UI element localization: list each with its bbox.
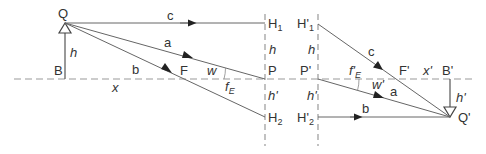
label-w: w xyxy=(207,63,218,78)
label-f-prime-e: f'E xyxy=(349,63,362,80)
label-ray-b: b xyxy=(132,62,139,77)
label-p-prime: P' xyxy=(300,63,311,78)
label-ray-a: a xyxy=(164,35,172,50)
label-h-image-plane: h xyxy=(308,42,315,57)
label-q: Q xyxy=(58,6,68,21)
label-h2: H2 xyxy=(268,110,282,127)
label-w-prime: w' xyxy=(372,77,384,92)
label-ray-a-image: a xyxy=(390,84,398,99)
label-f: F xyxy=(180,63,188,78)
label-h-prime-2: H'2 xyxy=(297,110,314,127)
label-h-object: h xyxy=(70,45,77,60)
label-h-prime-1: H'1 xyxy=(297,16,314,33)
label-h-prime-image-plane: h' xyxy=(307,88,317,103)
label-x-prime: x' xyxy=(422,63,433,78)
label-ray-c-image: c xyxy=(368,44,375,59)
label-p: P xyxy=(268,63,277,78)
thick-lens-diagram: Q B h x c a b F w fE H1 h P h' H2 H'1 h … xyxy=(0,0,486,154)
label-x: x xyxy=(111,80,119,95)
label-f-prime: F' xyxy=(399,63,409,78)
label-h-prime-plane: h' xyxy=(268,88,278,103)
label-f-e: fE xyxy=(225,79,236,96)
ray-b-arrowhead-icon xyxy=(161,63,172,73)
label-ray-b-image: b xyxy=(362,101,369,116)
ray-a-object xyxy=(65,23,265,79)
label-q-prime: Q' xyxy=(458,110,471,125)
ray-a-image-arrowhead-icon xyxy=(373,91,384,98)
ray-c-image-arrowhead-icon xyxy=(373,61,383,70)
label-h-plane: h xyxy=(269,42,276,57)
label-b-prime: B' xyxy=(442,63,453,78)
label-ray-c: c xyxy=(167,8,174,23)
angle-w-arc xyxy=(224,68,226,79)
angle-w-prime-arc xyxy=(358,79,360,91)
label-b: B xyxy=(54,63,63,78)
label-h-prime-image: h' xyxy=(456,90,466,105)
ray-a-arrowhead-icon xyxy=(182,51,193,58)
label-h1: H1 xyxy=(268,16,282,33)
